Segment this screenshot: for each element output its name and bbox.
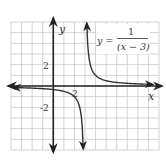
x-tick-label-2: 2	[72, 89, 78, 99]
y-axis-label: y	[58, 23, 66, 36]
y-tick-label-neg2: -2	[40, 103, 49, 113]
hyperbola-chart: y x 2 2 -2 y = 1 (x − 3)	[0, 0, 166, 162]
equation-lhs: y =	[96, 35, 113, 46]
equation-numerator: 1	[128, 26, 134, 37]
y-tick-label-2: 2	[43, 61, 49, 71]
equation-denominator: (x − 3)	[117, 41, 150, 52]
x-axis-label: x	[148, 90, 155, 103]
equation-label: y = 1 (x − 3)	[96, 24, 150, 54]
